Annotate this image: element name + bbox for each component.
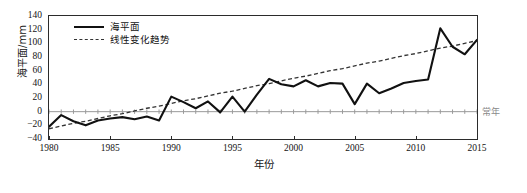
x-tick-mark bbox=[294, 136, 295, 140]
x-tick-mark bbox=[49, 136, 50, 140]
x-tick-label: 2005 bbox=[345, 143, 364, 153]
legend-item: 线性变化趋势 bbox=[74, 33, 170, 46]
baseline-zero-line bbox=[49, 109, 477, 113]
x-tick-mark bbox=[355, 136, 356, 140]
x-tick-mark bbox=[110, 136, 111, 140]
legend-item: 海平面 bbox=[74, 20, 170, 33]
x-tick-label: 1980 bbox=[40, 143, 59, 153]
x-tick-mark bbox=[171, 136, 172, 140]
x-tick-label: 1990 bbox=[162, 143, 181, 153]
x-tick-label: 2010 bbox=[406, 143, 425, 153]
legend-label: 线性变化趋势 bbox=[110, 33, 170, 46]
x-tick-mark bbox=[232, 136, 233, 140]
x-tick-label: 2000 bbox=[284, 143, 303, 153]
legend-dashed-line-icon bbox=[74, 35, 104, 45]
sea-level-chart: 海平面/mm 140120100806040200−20−40 海平面线性变化趋… bbox=[0, 0, 527, 193]
baseline-annotation: 常年 bbox=[482, 107, 500, 117]
legend-solid-line-icon bbox=[74, 22, 104, 32]
x-tick-mark bbox=[416, 136, 417, 140]
x-tick-label: 1995 bbox=[223, 143, 242, 153]
x-tick-label: 2015 bbox=[468, 143, 487, 153]
x-axis-title: 年份 bbox=[0, 158, 527, 170]
trend-line bbox=[49, 41, 477, 129]
x-tick-mark bbox=[477, 136, 478, 140]
x-tick-label: 1985 bbox=[101, 143, 120, 153]
legend-label: 海平面 bbox=[110, 20, 140, 33]
y-axis-title: 海平面/mm bbox=[17, 4, 28, 100]
chart-legend: 海平面线性变化趋势 bbox=[74, 20, 170, 46]
